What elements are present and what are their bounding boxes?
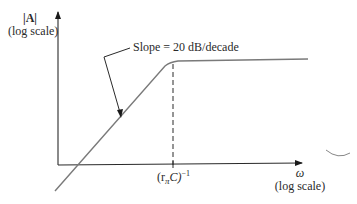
x-axis-sublabel: (log scale) xyxy=(264,180,336,193)
y-axis-sublabel: (log scale) xyxy=(8,25,52,38)
x-axis-label-block: ω (log scale) xyxy=(264,167,336,193)
y-axis-label-block: |A| (log scale) xyxy=(8,12,52,38)
slope-annotation: Slope = 20 dB/decade xyxy=(133,41,239,54)
break-frequency-label-superscript: −1 xyxy=(182,169,191,178)
slope-leader-line xyxy=(104,48,130,116)
break-frequency-label: (rπC)−1 xyxy=(157,171,190,188)
break-frequency-label-mid: C) xyxy=(170,170,182,184)
stray-mark xyxy=(326,150,350,156)
x-axis xyxy=(58,163,302,165)
break-frequency-label-base: (r xyxy=(157,170,165,184)
